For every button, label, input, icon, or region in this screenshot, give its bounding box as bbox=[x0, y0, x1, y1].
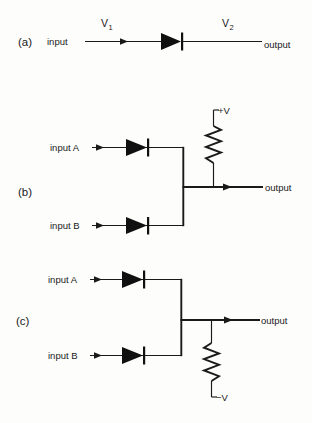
panel-b-diode-b bbox=[126, 217, 148, 235]
panel-c-supply-label: −V bbox=[216, 392, 229, 403]
panel-a-v1-label: V1 bbox=[101, 17, 113, 32]
panel-a-output-label: output bbox=[264, 39, 291, 50]
panel-a-input-label: input bbox=[47, 36, 68, 47]
panel-c-input-a-arrow-icon bbox=[94, 276, 102, 282]
panel-c-diode-a bbox=[122, 271, 144, 289]
panel-a-label: (a) bbox=[18, 36, 32, 48]
panel-c-output-arrow-icon bbox=[224, 317, 233, 324]
diode-logic-figure: (a) input V1 V2 output (b) input A bbox=[0, 0, 312, 423]
panel-b-resistor bbox=[206, 126, 221, 163]
panel-b-output-arrow-icon bbox=[223, 184, 232, 191]
panel-c-output-label: output bbox=[261, 315, 288, 326]
panel-a-diode bbox=[161, 33, 182, 51]
panel-b-label: (b) bbox=[18, 186, 32, 198]
panel-c-resistor bbox=[204, 343, 219, 381]
panel-b-output-label: output bbox=[265, 182, 292, 193]
panel-a-v2-label: V2 bbox=[222, 17, 234, 32]
panel-c-label: (c) bbox=[16, 315, 30, 327]
panel-a: (a) input V1 V2 output bbox=[18, 17, 291, 51]
panel-b-input-b-arrow-icon bbox=[96, 222, 104, 228]
panel-a-input-arrow-icon bbox=[120, 38, 128, 44]
panel-b-supply-label: +V bbox=[218, 105, 231, 116]
panel-c-input-b-arrow-icon bbox=[94, 352, 102, 358]
panel-b-input-a-arrow-icon bbox=[96, 144, 104, 150]
panel-c: (c) input A input B output bbox=[16, 271, 288, 403]
panel-c-input-b-label: input B bbox=[48, 350, 78, 361]
panel-c-input-a-label: input A bbox=[48, 274, 78, 285]
panel-b-diode-a bbox=[126, 139, 148, 157]
panel-c-diode-b bbox=[122, 347, 144, 365]
panel-b: (b) input A input B output bbox=[18, 105, 292, 235]
panel-b-input-a-label: input A bbox=[50, 142, 80, 153]
panel-b-input-b-label: input B bbox=[50, 220, 80, 231]
